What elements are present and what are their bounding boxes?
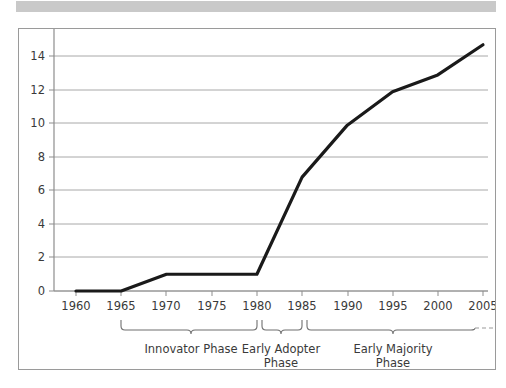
brace-innovator [121, 320, 257, 334]
y-tick-label-16: 16 [30, 29, 45, 30]
y-tickmarks [49, 29, 54, 291]
phase-label-early-adopter-line1: Early Adopter [242, 342, 321, 356]
phase-label-early-adopter-line2: Phase [264, 356, 298, 369]
brace-early-majority [307, 320, 495, 334]
phase-label-early-majority-line1: Early Majority [353, 342, 432, 356]
x-tick-label-2000: 2000 [423, 299, 452, 313]
y-tick-label-0: 0 [38, 284, 45, 298]
phase-label-innovator: Innovator Phase [144, 342, 237, 356]
y-tick-label-6: 6 [38, 183, 45, 197]
brace-early-adopter [262, 320, 302, 334]
chart-frame: 16 14 12 10 8 6 4 2 0 1960 1965 1970 197… [18, 28, 496, 370]
gridlines [54, 29, 488, 291]
y-tick-label-12: 12 [30, 83, 45, 97]
top-decoration-bar [16, 1, 496, 12]
y-tick-label-14: 14 [30, 49, 45, 63]
x-tick-label-1980: 1980 [242, 299, 271, 313]
phase-label-early-majority-line2: Phase [376, 356, 410, 369]
x-tick-label-1975: 1975 [197, 299, 226, 313]
x-tick-label-1960: 1960 [61, 299, 90, 313]
x-tick-label-1965: 1965 [106, 299, 135, 313]
y-tick-label-8: 8 [38, 150, 45, 164]
x-tick-label-1970: 1970 [151, 299, 180, 313]
y-tick-label-2: 2 [38, 250, 45, 264]
x-tick-label-2005: 2005 [468, 299, 495, 313]
adoption-curve [76, 45, 483, 291]
x-tick-label-1990: 1990 [333, 299, 362, 313]
y-tick-label-10: 10 [30, 116, 45, 130]
x-tick-label-1985: 1985 [287, 299, 316, 313]
y-tick-label-4: 4 [38, 217, 45, 231]
x-tick-label-1995: 1995 [378, 299, 407, 313]
line-chart: 16 14 12 10 8 6 4 2 0 1960 1965 1970 197… [19, 29, 495, 369]
x-tickmarks [76, 291, 483, 296]
